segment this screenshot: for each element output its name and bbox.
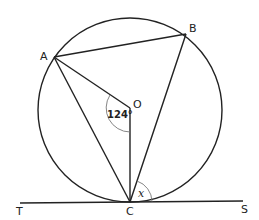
label-a: A — [40, 50, 48, 63]
label-c: C — [126, 205, 134, 218]
geometry-diagram: A B O C T S 124° x — [0, 0, 259, 220]
tangent-line-ts — [20, 201, 243, 203]
label-s: S — [241, 203, 248, 216]
label-t: T — [15, 205, 23, 218]
radius-oa — [54, 57, 130, 108]
label-o: O — [133, 98, 142, 111]
angle-label-x: x — [138, 187, 145, 200]
chord-bc — [130, 34, 186, 202]
angle-label-aoc: 124° — [107, 109, 133, 120]
label-b: B — [189, 22, 197, 35]
